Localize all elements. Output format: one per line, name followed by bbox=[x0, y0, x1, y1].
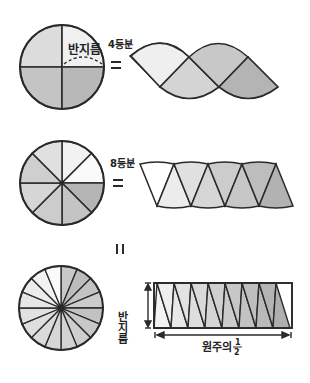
equals-sign-3 bbox=[117, 244, 123, 254]
equals-sign-1 bbox=[111, 62, 121, 68]
circle-16-sectors bbox=[19, 266, 103, 350]
circle-4-sectors bbox=[20, 25, 104, 109]
half-circumference-arrow bbox=[155, 332, 291, 338]
eight-sector-strip bbox=[140, 162, 293, 208]
eight-parts-label: 8등분 bbox=[110, 158, 135, 169]
four-sector-strip bbox=[130, 43, 278, 99]
equals-sign-2 bbox=[113, 180, 123, 186]
radius-height-arrow bbox=[145, 283, 151, 328]
radius-label-top: 반지름 bbox=[68, 42, 101, 57]
half-circumference-label: 원주의 bbox=[202, 340, 232, 354]
circle-area-diagram: 반지름 4등분 8등분 bbox=[0, 0, 310, 383]
circle-8-sectors bbox=[20, 141, 104, 225]
radius-label-rect: 반지름 bbox=[115, 310, 128, 344]
sixteen-sector-rectangle bbox=[154, 283, 292, 328]
four-parts-label: 4등분 bbox=[108, 39, 133, 50]
fraction-denominator: 2 bbox=[234, 348, 240, 357]
fraction-numerator: 1 bbox=[235, 338, 241, 347]
